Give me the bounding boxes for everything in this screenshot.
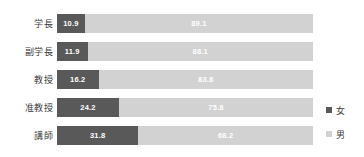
- table-row: 講師 31.8 68.2: [0, 125, 320, 146]
- category-label-1: 副学長: [0, 45, 57, 58]
- legend-item-male: 男: [318, 122, 362, 146]
- bar-segment-female-3: 24.2: [57, 98, 119, 117]
- legend-label-male: 男: [336, 128, 345, 141]
- legend-swatch-icon-female: [326, 107, 332, 113]
- legend-label-female: 女: [336, 104, 345, 117]
- bar-track-4: 31.8 68.2: [57, 126, 313, 145]
- bar-segment-male-3: 75.8: [119, 98, 313, 117]
- category-label-2: 教授: [0, 73, 57, 86]
- table-row: 学長 10.9 89.1: [0, 13, 320, 34]
- bar-segment-male-4: 68.2: [138, 126, 313, 145]
- stacked-bar-chart: 学長 10.9 89.1 副学長 11.9 88.1 教授 16.2 83.8 …: [0, 0, 364, 157]
- bar-track-0: 10.9 89.1: [57, 14, 313, 33]
- bar-segment-male-2: 83.8: [99, 70, 314, 89]
- table-row: 准教授 24.2 75.8: [0, 97, 320, 118]
- category-label-4: 講師: [0, 129, 57, 142]
- category-label-3: 准教授: [0, 101, 57, 114]
- bar-segment-male-0: 89.1: [85, 14, 313, 33]
- table-row: 教授 16.2 83.8: [0, 69, 320, 90]
- category-label-0: 学長: [0, 17, 57, 30]
- bar-track-2: 16.2 83.8: [57, 70, 313, 89]
- bar-segment-female-1: 11.9: [57, 42, 88, 61]
- bar-track-3: 24.2 75.8: [57, 98, 313, 117]
- plot-area: 学長 10.9 89.1 副学長 11.9 88.1 教授 16.2 83.8 …: [0, 0, 320, 157]
- bar-segment-female-0: 10.9: [57, 14, 85, 33]
- bar-segment-female-4: 31.8: [57, 126, 138, 145]
- table-row: 副学長 11.9 88.1: [0, 41, 320, 62]
- bar-segment-male-1: 88.1: [88, 42, 314, 61]
- chart-legend: 女 男: [318, 98, 362, 146]
- bar-track-1: 11.9 88.1: [57, 42, 313, 61]
- legend-item-female: 女: [318, 98, 362, 122]
- legend-swatch-icon-male: [326, 131, 332, 137]
- bar-segment-female-2: 16.2: [57, 70, 99, 89]
